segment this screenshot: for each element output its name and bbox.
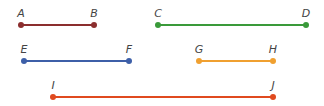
point-label-j: J xyxy=(269,79,274,92)
point-label-a: A xyxy=(16,7,25,20)
endpoint-g xyxy=(196,58,202,64)
point-label-g: G xyxy=(195,43,204,56)
endpoint-c xyxy=(155,22,161,28)
point-label-i: I xyxy=(51,79,54,92)
segment-cd: CD xyxy=(154,7,310,28)
point-label-b: B xyxy=(90,7,98,20)
endpoint-h xyxy=(270,58,276,64)
point-label-e: E xyxy=(21,43,28,56)
endpoint-j xyxy=(270,94,276,100)
point-label-c: C xyxy=(154,7,162,20)
line-segments-diagram: ABCDEFGHIJ xyxy=(0,0,324,106)
segment-ef: EF xyxy=(21,43,133,64)
point-label-h: H xyxy=(269,43,277,56)
endpoint-d xyxy=(303,22,309,28)
segment-ij: IJ xyxy=(50,79,276,100)
point-label-f: F xyxy=(126,43,133,56)
segment-ab: AB xyxy=(16,7,98,28)
segment-gh: GH xyxy=(195,43,277,64)
endpoint-b xyxy=(91,22,97,28)
endpoint-f xyxy=(126,58,132,64)
endpoint-e xyxy=(21,58,27,64)
endpoint-i xyxy=(50,94,56,100)
endpoint-a xyxy=(18,22,24,28)
point-label-d: D xyxy=(302,7,310,20)
